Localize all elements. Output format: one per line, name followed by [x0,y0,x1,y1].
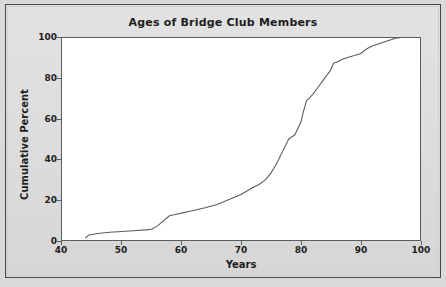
x-axis-tick-mark [121,241,122,245]
y-axis-tick-mark [57,119,61,120]
x-axis-tick-label: 70 [226,245,256,255]
x-axis-tick-label: 80 [286,245,316,255]
x-axis-tick-label: 100 [406,245,436,255]
y-axis-tick-label: 40 [31,154,57,164]
y-axis-tick-mark [57,78,61,79]
chart-screenshot: Ages of Bridge Club Members 020406080100… [0,0,446,287]
y-axis-tick-label: 60 [31,114,57,124]
cumulative-percent-line-chart [62,38,420,240]
x-axis-tick-mark [361,241,362,245]
x-axis-tick-mark [301,241,302,245]
x-axis-tick-label: 90 [346,245,376,255]
x-axis-tick-label: 50 [106,245,136,255]
series-line-cumulative-percent [86,38,399,238]
y-axis-tick-labels: 020406080100 [27,0,57,287]
page-title: Ages of Bridge Club Members [0,16,446,29]
y-axis-tick-mark [57,159,61,160]
x-axis-tick-label: 60 [166,245,196,255]
y-axis-tick-mark [57,37,61,38]
x-axis-tick-mark [61,241,62,245]
x-axis-tick-label: 40 [46,245,76,255]
plot-area [61,37,421,241]
y-axis-title: Cumulative Percent [19,75,30,215]
x-axis-title: Years [61,259,421,270]
x-axis-tick-mark [421,241,422,245]
x-axis-tick-mark [181,241,182,245]
y-axis-tick-label: 100 [31,32,57,42]
y-axis-tick-label: 80 [31,73,57,83]
y-axis-tick-label: 20 [31,195,57,205]
x-axis-tick-mark [241,241,242,245]
y-axis-tick-mark [57,200,61,201]
